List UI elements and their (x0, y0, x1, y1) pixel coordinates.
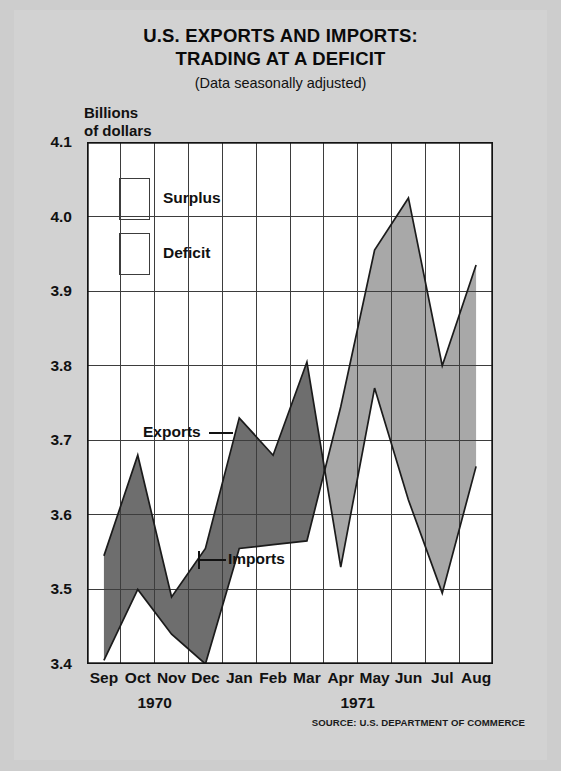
y-axis-tick-3-6: 3.6 (26, 506, 72, 524)
x-axis-year-1971: 1971 (340, 694, 374, 712)
y-axis-tick-3-5: 3.5 (26, 580, 72, 598)
y-axis-tick-3-8: 3.8 (26, 357, 72, 375)
chart-svg (87, 142, 493, 664)
plot-area (87, 142, 493, 664)
x-axis-tick-nov: Nov (157, 669, 186, 687)
legend-label-deficit: Deficit (163, 244, 210, 262)
y-axis-tick-3-7: 3.7 (26, 431, 72, 449)
chart-subtitle: (Data seasonally adjusted) (0, 73, 561, 94)
x-axis-tick-dec: Dec (191, 669, 219, 687)
y-axis-tick-4-1: 4.1 (26, 133, 72, 151)
y-axis-tick-4-0: 4.0 (26, 208, 72, 226)
x-axis-tick-may: May (360, 669, 390, 687)
chart-title-line-1: U.S. EXPORTS AND IMPORTS: (0, 24, 561, 47)
x-axis-tick-oct: Oct (125, 669, 151, 687)
x-axis-tick-jul: Jul (431, 669, 453, 687)
x-axis-tick-mar: Mar (293, 669, 321, 687)
x-axis-tick-feb: Feb (259, 669, 287, 687)
x-axis-year-1970: 1970 (137, 694, 171, 712)
chart-page: U.S. EXPORTS AND IMPORTS: TRADING AT A D… (0, 0, 561, 771)
chart-title-block: U.S. EXPORTS AND IMPORTS: TRADING AT A D… (0, 24, 561, 94)
legend-swatch-surplus (119, 178, 150, 220)
series-label-exports: Exports (143, 423, 201, 441)
x-axis-tick-jun: Jun (395, 669, 423, 687)
chart-title-line-2: TRADING AT A DEFICIT (0, 47, 561, 70)
y-axis-tick-3-9: 3.9 (26, 282, 72, 300)
x-axis-tick-jan: Jan (226, 669, 253, 687)
x-axis-tick-apr: Apr (327, 669, 354, 687)
x-axis-tick-aug: Aug (461, 669, 491, 687)
source-note: SOURCE: U.S. DEPARTMENT OF COMMERCE (312, 717, 525, 728)
y-axis-title: Billions of dollars (84, 104, 152, 140)
legend-swatch-deficit (119, 233, 150, 275)
y-axis-tick-3-4: 3.4 (26, 655, 72, 673)
x-axis-tick-sep: Sep (90, 669, 118, 687)
legend-label-surplus: Surplus (163, 189, 221, 207)
series-label-imports: Imports (228, 550, 285, 568)
